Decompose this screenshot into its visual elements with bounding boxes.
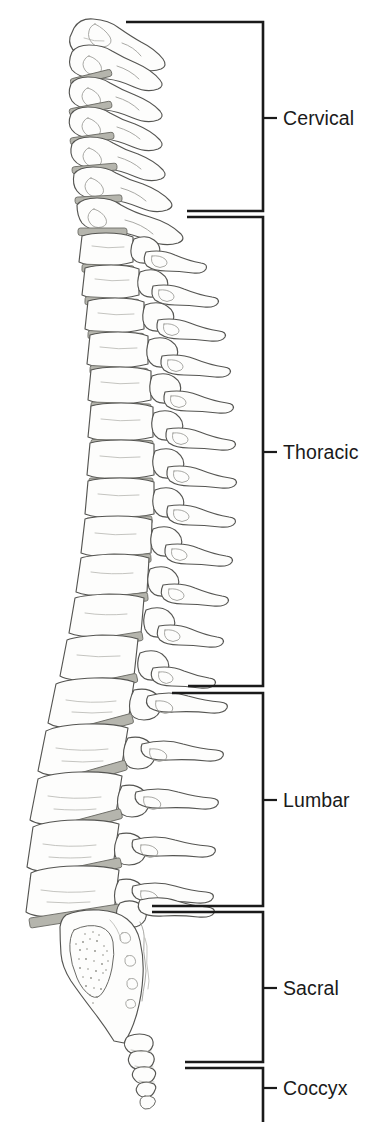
region-label-coccyx: Coccyx — [283, 1077, 348, 1100]
region-label-cervical: Cervical — [283, 107, 354, 130]
region-label-thoracic: Thoracic — [283, 441, 359, 464]
region-label-sacral: Sacral — [283, 977, 339, 1000]
region-label-lumbar: Lumbar — [283, 789, 350, 812]
spine-anatomy-figure: .bone { fill:#fdfdfc; stroke:#555552; st… — [0, 0, 385, 1122]
